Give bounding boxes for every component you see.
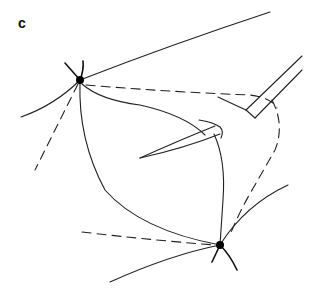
node-top-left-edges — [21, 12, 277, 245]
diagram-canvas — [0, 0, 317, 296]
sheet-edge — [246, 110, 255, 118]
spike-edge — [140, 126, 215, 158]
stub-line — [220, 245, 237, 270]
dashed-line — [82, 232, 215, 245]
spike-structure — [140, 120, 224, 245]
dashed-line — [86, 85, 277, 108]
edge-line — [214, 134, 224, 245]
spike-edge — [140, 134, 220, 158]
node-top-left — [76, 76, 84, 84]
edge-line — [220, 185, 288, 245]
sheet-edge — [246, 56, 302, 110]
edge-line — [82, 84, 205, 135]
node-bottom-right — [216, 241, 224, 249]
dashed-line — [35, 84, 78, 170]
edge-line — [80, 12, 270, 80]
sheet-structure — [218, 56, 302, 235]
edge-line — [80, 82, 220, 245]
spike-edge — [199, 120, 222, 138]
sheet-edge — [218, 97, 246, 110]
node-bottom-right-edges — [82, 185, 288, 282]
edge-line — [110, 245, 220, 282]
dashed-line — [230, 100, 279, 235]
